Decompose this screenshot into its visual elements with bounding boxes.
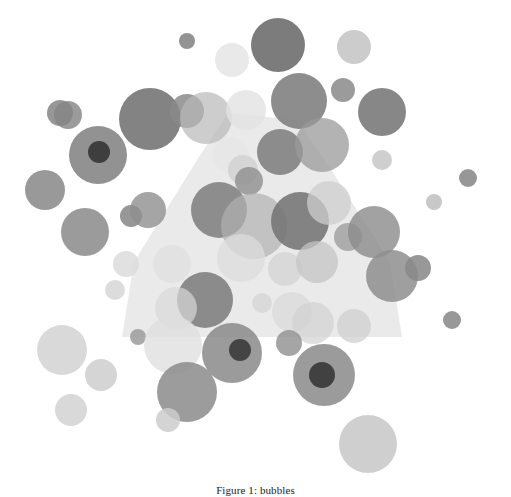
scatter-point <box>276 330 302 356</box>
scatter-point <box>37 325 87 375</box>
scatter-point <box>130 329 146 345</box>
scatter-point <box>309 362 335 388</box>
figure-caption: Figure 1: bubbles <box>0 484 511 496</box>
scatter-point <box>307 181 351 225</box>
scatter-point <box>61 208 109 256</box>
scatter-point <box>226 90 266 130</box>
bubble-scatter-plot <box>0 0 511 497</box>
scatter-point <box>235 167 263 195</box>
scatter-point <box>459 169 477 187</box>
scatter-point <box>130 192 166 228</box>
scatter-point <box>331 78 355 102</box>
scatter-point <box>229 339 251 361</box>
scatter-point <box>358 88 406 136</box>
scatter-point <box>426 194 442 210</box>
scatter-point <box>156 408 180 432</box>
scatter-point <box>153 245 191 283</box>
scatter-point <box>405 255 431 281</box>
scatter-point <box>85 359 117 391</box>
scatter-point <box>217 234 265 282</box>
scatter-point <box>119 88 181 150</box>
scatter-point <box>88 141 110 163</box>
scatter-point <box>113 251 139 277</box>
scatter-point <box>47 100 73 126</box>
scatter-point <box>180 92 232 144</box>
scatter-point <box>105 280 125 300</box>
scatter-point <box>296 241 338 283</box>
scatter-point <box>251 18 305 72</box>
scatter-point <box>252 293 272 313</box>
scatter-point <box>337 30 371 64</box>
scatter-point <box>337 309 371 343</box>
scatter-point <box>339 415 397 473</box>
scatter-point <box>25 170 65 210</box>
scatter-point <box>179 33 195 49</box>
scatter-point <box>55 394 87 426</box>
scatter-point <box>295 118 349 172</box>
scatter-point <box>372 150 392 170</box>
figure-container <box>0 0 511 497</box>
scatter-point <box>443 311 461 329</box>
scatter-point <box>215 43 249 77</box>
